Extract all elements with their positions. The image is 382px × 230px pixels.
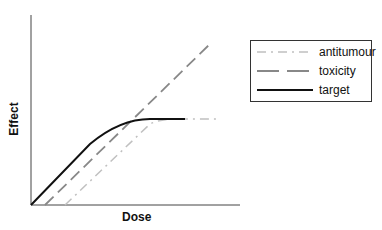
legend-item-toxicity: toxicity	[257, 62, 356, 80]
legend-item-target: target	[257, 81, 350, 99]
dash-dot-line-icon	[257, 47, 313, 57]
x-axis-label: Dose	[122, 210, 151, 224]
toxicity-line	[45, 42, 212, 205]
dashed-line-icon	[257, 66, 313, 76]
legend: antitumour toxicity target	[250, 40, 372, 102]
target-line	[31, 119, 185, 205]
legend-item-antitumour: antitumour	[257, 43, 376, 61]
y-axis-label: Effect	[7, 99, 21, 139]
solid-line-icon	[257, 85, 313, 95]
chart-plot-area	[0, 0, 382, 230]
